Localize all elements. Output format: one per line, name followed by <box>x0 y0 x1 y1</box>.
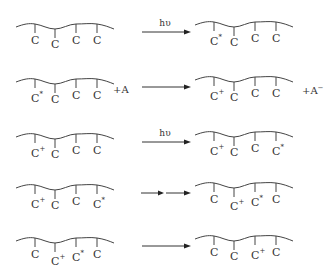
atom-symbol: C <box>251 87 259 100</box>
anion-charge-label: − <box>318 84 324 92</box>
atom-symbol: C <box>31 248 39 261</box>
photon-energy-label: hυ <box>140 128 190 138</box>
reaction-step-row: CC+C*CCCC+C <box>0 228 333 276</box>
polymer-backbone-icon <box>193 17 297 57</box>
right-polymer-chain: C+CCC* <box>193 127 293 167</box>
reaction-arrow-icon <box>140 234 195 258</box>
left-polymer-chain: C*CCC <box>14 74 114 114</box>
carbon-atom-label: C <box>72 90 80 101</box>
left-polymer-chain: CC+C*C <box>14 233 114 273</box>
right-polymer-chain: C*CCC <box>193 17 293 57</box>
acceptor-reactant-label: +A <box>113 84 129 95</box>
excited-state-label: * <box>80 249 84 257</box>
atom-symbol: C <box>230 91 238 104</box>
carbon-atom-label: C <box>251 88 259 99</box>
atom-symbol: C <box>251 32 259 45</box>
atom-symbol: C <box>93 144 101 157</box>
atom-symbol: C <box>51 93 59 106</box>
carbon-atom-label: C <box>93 90 101 101</box>
left-polymer-chain: C+CCC <box>14 129 114 169</box>
reaction-step-row: CCCCC*CCChυ <box>0 14 333 64</box>
cation-charge-label: + <box>218 143 224 151</box>
excited-state-label: * <box>218 33 222 41</box>
reaction-step-row: C+CCCC+CCC*hυ <box>0 124 333 174</box>
polymer-backbone-icon <box>193 72 297 112</box>
reaction-arrow-icon <box>140 75 195 99</box>
carbon-atom-label: C* <box>272 143 284 157</box>
carbon-atom-label: C <box>93 145 101 156</box>
atom-symbol: C <box>210 193 218 206</box>
carbon-atom-label: C <box>251 33 259 44</box>
carbon-atom-label: C <box>51 94 59 105</box>
carbon-atom-label: C <box>72 145 80 156</box>
right-polymer-chain: CC+C*C <box>193 178 293 218</box>
carbon-atom-label: C <box>31 35 39 46</box>
cation-charge-label: + <box>259 247 265 255</box>
atom-symbol: C <box>72 195 80 208</box>
carbon-atom-label: C+ <box>251 247 265 261</box>
carbon-atom-label: C+ <box>210 88 224 102</box>
carbon-atom-label: C <box>210 247 218 258</box>
polymer-backbone-icon <box>14 129 118 169</box>
left-polymer-chain: C+CCC* <box>14 180 114 220</box>
excited-state-label: * <box>280 143 284 151</box>
carbon-atom-label: C <box>272 88 280 99</box>
atom-symbol: C <box>31 34 39 47</box>
cation-charge-label: + <box>238 198 244 206</box>
carbon-atom-label: C* <box>210 33 222 47</box>
right-polymer-chain: C+CCC <box>193 72 293 112</box>
excited-state-label: * <box>101 196 105 204</box>
atom-symbol: C <box>230 250 238 263</box>
acceptor-symbol: +A <box>302 85 318 96</box>
carbon-atom-label: C <box>230 251 238 262</box>
reaction-step-row: C*CCCC+CCC+A+A− <box>0 69 333 119</box>
left-polymer-chain: CCCC <box>14 19 114 59</box>
carbon-atom-label: C <box>51 200 59 211</box>
carbon-atom-label: C+ <box>230 198 244 212</box>
carbon-atom-label: C* <box>251 194 263 208</box>
sequential-reaction-arrow-icon <box>140 181 195 205</box>
atom-symbol: C <box>272 246 280 259</box>
excited-state-label: * <box>39 90 43 98</box>
carbon-atom-label: C <box>230 147 238 158</box>
atom-symbol: C <box>72 89 80 102</box>
carbon-atom-label: C <box>72 35 80 46</box>
atom-symbol: C <box>51 199 59 212</box>
carbon-atom-label: C* <box>31 90 43 104</box>
carbon-atom-label: C+ <box>51 253 65 267</box>
atom-symbol: C <box>72 144 80 157</box>
polymer-backbone-icon <box>14 19 118 59</box>
polymer-backbone-icon <box>193 178 297 218</box>
polymer-backbone-icon <box>14 233 118 273</box>
atom-symbol: C <box>72 34 80 47</box>
carbon-atom-label: C <box>272 33 280 44</box>
atom-symbol: C <box>210 246 218 259</box>
carbon-atom-label: C <box>272 194 280 205</box>
carbon-atom-label: C <box>72 196 80 207</box>
atom-symbol: C <box>230 36 238 49</box>
atom-symbol: C <box>51 148 59 161</box>
atom-symbol: C <box>93 248 101 261</box>
acceptor-anion-label: +A− <box>302 84 323 96</box>
polymer-backbone-icon <box>193 231 297 271</box>
carbon-atom-label: C <box>93 249 101 260</box>
cation-charge-label: + <box>218 88 224 96</box>
carbon-atom-label: C+ <box>31 196 45 210</box>
atom-symbol: C <box>272 32 280 45</box>
excited-state-label: * <box>259 194 263 202</box>
atom-symbol: C <box>230 146 238 159</box>
atom-symbol: C <box>93 89 101 102</box>
carbon-atom-label: C <box>251 143 259 154</box>
cation-charge-label: + <box>39 196 45 204</box>
atom-symbol: C <box>251 142 259 155</box>
carbon-atom-label: C+ <box>31 145 45 159</box>
photon-energy-label: hυ <box>140 18 190 28</box>
carbon-atom-label: C <box>51 39 59 50</box>
carbon-atom-label: C <box>210 194 218 205</box>
carbon-atom-label: C* <box>72 249 84 263</box>
carbon-atom-label: C <box>93 35 101 46</box>
carbon-atom-label: C <box>230 37 238 48</box>
atom-symbol: C <box>272 87 280 100</box>
right-polymer-chain: CCC+C <box>193 231 293 271</box>
carbon-atom-label: C <box>51 149 59 160</box>
